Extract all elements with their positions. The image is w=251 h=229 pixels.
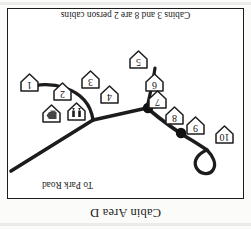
restroom-icon xyxy=(66,101,87,122)
cabin-number: 1 xyxy=(19,76,40,93)
scan-artifact xyxy=(0,223,251,226)
cabin-marker-1[interactable]: 1 xyxy=(19,72,40,93)
cabin-marker-8[interactable]: 8 xyxy=(164,105,185,126)
page-title: Cabin Area D xyxy=(0,205,251,220)
cabin-number: 4 xyxy=(99,88,120,105)
cabin-marker-3[interactable]: 3 xyxy=(80,69,101,90)
road-label: To Park Road xyxy=(42,180,93,190)
cabin-number: 9 xyxy=(185,119,206,136)
cabin-number: 10 xyxy=(214,128,235,145)
scanned-map-page: Cabin Area D xyxy=(0,0,251,229)
facility-marker-shower[interactable] xyxy=(41,103,62,124)
scan-content: Cabin Area D xyxy=(0,0,251,229)
cabin-marker-9[interactable]: 9 xyxy=(185,115,206,136)
shower-icon xyxy=(41,103,62,124)
cabin-number: 2 xyxy=(52,85,73,102)
cabin-marker-2[interactable]: 2 xyxy=(52,81,73,102)
facility-marker-restroom[interactable] xyxy=(66,101,87,122)
map-note: Cabins 3 and 8 are 2 person cabins xyxy=(0,10,251,20)
map-frame: To Park Road 1 2 3 xyxy=(7,8,244,199)
cabin-marker-4[interactable]: 4 xyxy=(99,84,120,105)
cabin-number: 8 xyxy=(164,109,185,126)
cabin-number: 5 xyxy=(128,53,149,70)
cabin-number: 3 xyxy=(80,73,101,90)
cabin-marker-10[interactable]: 10 xyxy=(214,124,235,145)
scan-artifact xyxy=(0,2,251,5)
cabin-marker-5[interactable]: 5 xyxy=(128,49,149,70)
